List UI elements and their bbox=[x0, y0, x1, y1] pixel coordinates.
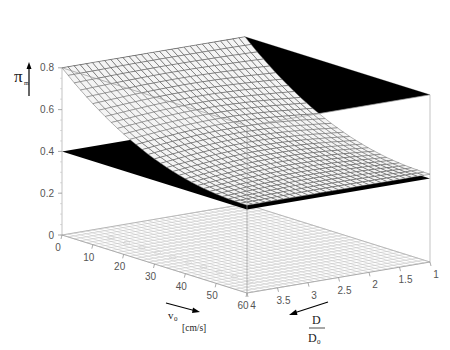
right-arrow-icon bbox=[192, 308, 200, 314]
z-label-main: π bbox=[14, 67, 23, 86]
z-axis-ticks: 00.20.40.60.8 bbox=[40, 62, 62, 240]
y-tick-mark bbox=[247, 293, 248, 297]
y-tick-mark bbox=[369, 272, 370, 276]
y-label-denominator: D bbox=[308, 331, 317, 345]
y-tick-mark bbox=[308, 283, 309, 287]
z-label-sub: m bbox=[24, 80, 29, 86]
y-tick-mark bbox=[400, 267, 401, 271]
x-tick-mark bbox=[61, 235, 62, 239]
y-label-numerator: D bbox=[312, 313, 321, 327]
y-tick-label: 3.5 bbox=[277, 295, 291, 306]
left-arrow-icon bbox=[289, 310, 298, 316]
y-tick-mark bbox=[278, 288, 279, 292]
floor-grid-line bbox=[229, 256, 412, 287]
mesh-surface bbox=[62, 37, 430, 205]
y-label-denominator-sub: 0 bbox=[317, 338, 321, 346]
x-tick-mark bbox=[154, 264, 155, 268]
floor-grid-line bbox=[141, 222, 326, 280]
x-tick-label: 10 bbox=[83, 252, 95, 263]
floor-grid-line bbox=[161, 235, 344, 266]
z-tick-label: 0.2 bbox=[40, 188, 54, 199]
floor-grid-line bbox=[192, 245, 375, 276]
floor-grid-line bbox=[68, 234, 253, 292]
x-tick-label: 30 bbox=[145, 271, 157, 282]
floor-grid-line bbox=[185, 243, 368, 274]
y-axis-arrow-line bbox=[294, 302, 328, 313]
y-axis-label: D D 0 bbox=[289, 302, 328, 346]
x-tick-label: 40 bbox=[176, 281, 188, 292]
y-tick-label: 1 bbox=[433, 269, 439, 280]
surface-plot: 00.20.40.60.8 0102030405060 11.522.533.5… bbox=[0, 0, 450, 350]
x-axis-label: v 0 [cm/s] bbox=[166, 303, 206, 333]
x-tick-mark bbox=[215, 283, 216, 287]
floor-grid-line bbox=[173, 239, 356, 270]
x-tick-label: 20 bbox=[114, 261, 126, 272]
y-tick-label: 1.5 bbox=[399, 274, 413, 285]
y-tick-label: 2 bbox=[372, 279, 378, 290]
z-tick-label: 0 bbox=[48, 230, 54, 241]
z-tick-label: 0.4 bbox=[40, 146, 54, 157]
floor-grid-line bbox=[204, 248, 387, 279]
x-tick-mark bbox=[92, 245, 93, 249]
floor-grid-line bbox=[167, 237, 350, 268]
x-tick-label: 50 bbox=[207, 290, 219, 301]
floor-grid-line bbox=[135, 223, 320, 281]
x-tick-mark bbox=[123, 254, 124, 258]
floor-grid-line bbox=[93, 230, 278, 288]
y-tick-label: 2.5 bbox=[338, 285, 352, 296]
z-tick-label: 0.6 bbox=[40, 104, 54, 115]
up-arrow-icon bbox=[27, 62, 32, 69]
box-edge bbox=[62, 204, 245, 235]
floor-grid-line bbox=[241, 260, 424, 291]
floor-grid-line bbox=[99, 229, 284, 287]
y-axis-ticks: 11.522.533.54 bbox=[247, 262, 439, 311]
y-tick-mark bbox=[339, 278, 340, 282]
floor-grid-line bbox=[74, 233, 259, 291]
floor-grid-line bbox=[80, 232, 265, 290]
x-label-sub: 0 bbox=[174, 315, 178, 323]
x-label-unit: [cm/s] bbox=[182, 323, 206, 333]
floor-grid-line bbox=[235, 258, 418, 289]
y-tick-label: 3 bbox=[311, 290, 317, 301]
y-tick-mark bbox=[430, 262, 431, 266]
floor-grid-line bbox=[198, 247, 381, 278]
floor-grid-line bbox=[222, 254, 405, 285]
y-tick-label: 4 bbox=[250, 300, 256, 311]
z-tick-label: 0.8 bbox=[40, 62, 54, 73]
z-axis-label: π m bbox=[14, 62, 32, 96]
x-tick-mark bbox=[184, 274, 185, 278]
x-tick-label: 60 bbox=[237, 300, 249, 311]
box-edge bbox=[245, 204, 430, 262]
floor-grid-line bbox=[111, 227, 296, 285]
floor-grid-line bbox=[154, 220, 339, 278]
x-tick-label: 0 bbox=[55, 242, 61, 253]
floor-grid-line bbox=[147, 221, 332, 279]
